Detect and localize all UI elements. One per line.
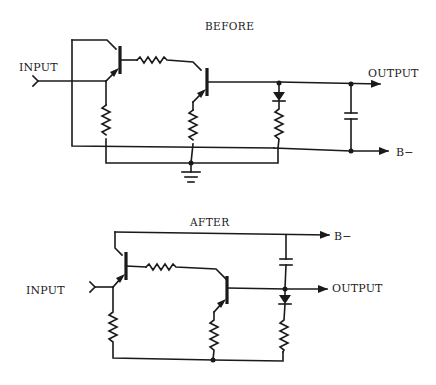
before-resistor-r1-icon <box>102 105 110 135</box>
after-bottom-wire <box>213 352 283 361</box>
after-supply-wire <box>115 232 329 235</box>
after-diagram: AFTER INPUT OUTPUT B− <box>26 216 383 363</box>
before-output-label: OUTPUT <box>368 67 419 80</box>
before-resistor-r3-icon <box>189 110 197 140</box>
after-transistor-q2-icon <box>214 276 285 312</box>
before-wire <box>106 139 191 163</box>
before-ground-bus <box>191 148 278 163</box>
after-resistor-r2-icon <box>146 264 226 279</box>
after-resistor-r1-icon <box>109 287 213 360</box>
before-q1-collector-wire <box>72 40 116 49</box>
before-output-wire <box>279 82 380 84</box>
after-output-label: OUTPUT <box>332 282 383 295</box>
after-transistor-q1-icon <box>113 252 146 287</box>
after-resistor-r3-icon <box>210 312 218 360</box>
before-supply-wire <box>274 148 388 151</box>
before-input-label: INPUT <box>19 61 58 74</box>
before-supply-label: B− <box>396 146 414 159</box>
before-transistor-q2-icon <box>193 68 279 102</box>
after-resistor-r4-icon <box>280 304 288 352</box>
before-title: BEFORE <box>205 20 254 32</box>
after-supply-label: B− <box>334 230 352 243</box>
before-resistor-r2-icon <box>137 57 201 70</box>
before-resistor-r4-icon <box>275 101 283 148</box>
before-transistor-q1-icon <box>106 46 137 81</box>
before-ground-icon <box>182 163 200 182</box>
before-diode-icon <box>273 83 285 101</box>
before-capacitor-icon <box>345 84 357 151</box>
after-title: AFTER <box>189 216 230 228</box>
circuit-figure: BEFORE INPUT OUTPUT B− <box>0 0 436 385</box>
after-q1-collector-wire <box>115 232 122 255</box>
after-diode-icon <box>279 289 291 304</box>
after-capacitor-icon <box>280 235 292 289</box>
after-input-label: INPUT <box>26 284 65 297</box>
before-diagram: BEFORE INPUT OUTPUT B− <box>19 20 419 182</box>
